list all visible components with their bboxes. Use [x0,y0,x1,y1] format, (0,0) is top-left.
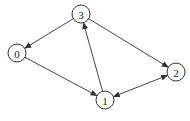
node-3: 3 [72,5,90,23]
node-0: 0 [8,44,26,62]
node-2: 2 [167,63,185,81]
edge-3-0 [25,19,74,49]
nodes-layer: 0123 [8,5,185,109]
node-label: 3 [78,9,84,21]
node-label: 0 [14,48,20,60]
edge-0-1 [25,57,97,96]
node-1: 1 [96,91,114,109]
edge-1-3 [83,23,102,92]
node-label: 1 [102,95,108,107]
edge-3-2 [89,19,169,68]
edges-layer [25,19,169,97]
edge-1-2 [113,75,167,96]
node-label: 2 [173,67,179,79]
graph-canvas: 0123 [0,0,190,121]
